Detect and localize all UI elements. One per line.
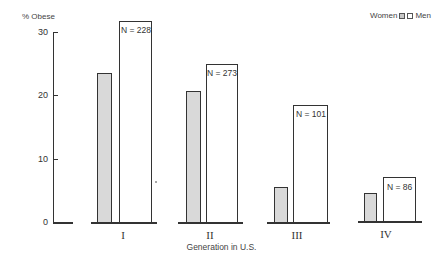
baseline-group-4 (358, 221, 422, 223)
y-tick-20 (53, 95, 58, 96)
baseline-group-2 (178, 222, 243, 224)
x-axis-title: Generation in U.S. (0, 242, 443, 252)
n-label-gen-4: N = 86 (387, 182, 412, 192)
n-label-gen-1: N = 228 (121, 25, 151, 35)
y-axis-title: % Obese (22, 12, 55, 21)
legend: Women Men (370, 11, 431, 20)
y-axis-line (53, 32, 54, 222)
bar-women-gen-1 (97, 73, 112, 222)
bar-men-gen-1 (119, 21, 152, 222)
y-tick-label-30: 30 (28, 27, 48, 37)
bar-women-gen-4 (364, 193, 377, 221)
x-tick-label-gen-1: I (103, 229, 143, 241)
legend-women-label: Women (370, 11, 397, 20)
bar-men-gen-2 (206, 64, 238, 222)
y-tick-label-20: 20 (28, 90, 48, 100)
y-tick-30 (53, 32, 58, 33)
x-tick-label-gen-4: IV (366, 228, 406, 240)
scan-speck (155, 181, 157, 183)
bar-women-gen-2 (186, 91, 201, 222)
y-tick-label-10: 10 (28, 154, 48, 164)
x-tick-label-gen-3: III (277, 229, 317, 241)
legend-men-swatch (407, 13, 413, 19)
baseline-group-1 (91, 222, 157, 224)
y-tick-10 (53, 159, 58, 160)
bar-women-gen-3 (274, 187, 288, 222)
y-axis-base (53, 222, 73, 224)
y-tick-label-0: 0 (28, 217, 48, 227)
legend-women-swatch (399, 13, 405, 19)
legend-men-label: Men (415, 11, 431, 20)
n-label-gen-3: N = 101 (296, 109, 326, 119)
bar-men-gen-3 (293, 105, 328, 222)
n-label-gen-2: N = 273 (207, 68, 237, 78)
baseline-group-3 (267, 222, 330, 224)
x-tick-label-gen-2: II (190, 229, 230, 241)
